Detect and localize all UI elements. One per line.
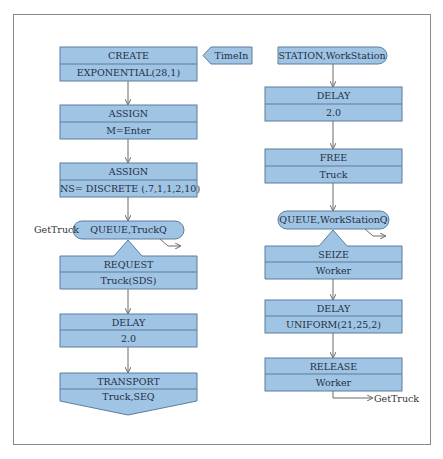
release-param: Worker bbox=[265, 378, 402, 388]
assign1-param: M=Enter bbox=[60, 126, 197, 136]
queue-workstationq-label: QUEUE,WorkStationQ bbox=[278, 215, 389, 225]
assign1-title: ASSIGN bbox=[60, 109, 197, 119]
seize-title: SEIZE bbox=[265, 250, 402, 260]
timein-label: TimeIn bbox=[211, 51, 252, 61]
request-title: REQUEST bbox=[60, 260, 197, 270]
free-title: FREE bbox=[265, 153, 402, 163]
delay-right1-param: 2.0 bbox=[265, 108, 402, 118]
assign2-title: ASSIGN bbox=[60, 167, 197, 177]
queue-truckq-exit-arrow bbox=[160, 239, 180, 246]
create-title: CREATE bbox=[60, 51, 197, 61]
free-param: Truck bbox=[265, 170, 402, 180]
seize-param: Worker bbox=[265, 266, 402, 276]
assign2-param: NS= DISCRETE (.7,1,1,2,10) bbox=[60, 184, 197, 194]
delay-right1-title: DELAY bbox=[265, 91, 402, 101]
delay-right2-param: UNIFORM(21,25,2) bbox=[265, 320, 402, 330]
delay-left-param: 2.0 bbox=[60, 334, 197, 344]
transport-title: TRANSPORT bbox=[60, 377, 197, 387]
delay-right2-title: DELAY bbox=[265, 304, 402, 314]
gettruck-exit-label: GetTruck bbox=[374, 394, 419, 404]
station-label: STATION,WorkStation bbox=[278, 51, 386, 61]
queue-workstationq-exit-arrow bbox=[365, 229, 385, 236]
delay-left-title: DELAY bbox=[60, 318, 197, 328]
release-exit-arrow bbox=[333, 391, 372, 398]
release-title: RELEASE bbox=[265, 362, 402, 372]
queue-truckq-label: QUEUE,TruckQ bbox=[73, 225, 184, 235]
create-param: EXPONENTIAL(28,1) bbox=[60, 68, 197, 78]
request-param: Truck(SDS) bbox=[60, 276, 197, 286]
transport-param: Truck,SEQ bbox=[60, 392, 197, 402]
